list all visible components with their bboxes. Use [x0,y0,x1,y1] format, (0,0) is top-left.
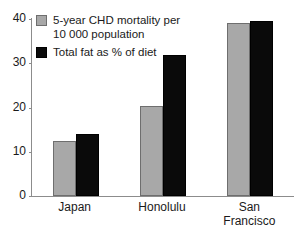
grey-swatch-icon [36,15,47,26]
y-axis-tick-mark [29,196,32,197]
y-axis-tick: 20 [0,108,32,109]
y-axis-tick-label: 40 [13,11,26,26]
bar [140,106,163,196]
y-axis-tick-label: 0 [19,188,26,203]
legend-item-total-fat: Total fat as % of diet [36,45,180,59]
x-axis-category-label: Honolulu [117,200,207,214]
bar [227,23,250,196]
bar [76,134,99,196]
bar-group [226,19,274,196]
y-axis-tick-label: 10 [13,144,26,159]
black-swatch-icon [36,47,47,58]
bar [53,141,76,196]
bar [163,55,186,196]
x-axis-line [31,196,294,197]
bar [250,21,273,196]
y-axis-tick: 30 [0,63,32,64]
legend-item-chd-mortality: 5-year CHD mortality per 10 000 populati… [36,13,180,41]
y-axis-tick-label: 30 [13,55,26,70]
y-axis-tick: 0 [0,196,32,197]
x-axis-category-label: San Francisco [204,200,294,228]
y-axis-tick: 40 [0,19,32,20]
bar-chart: 010203040 JapanHonoluluSan Francisco 5-y… [0,0,303,234]
y-axis-tick: 10 [0,152,32,153]
chart-legend: 5-year CHD mortality per 10 000 populati… [36,13,180,63]
legend-item-label: Total fat as % of diet [53,45,157,59]
legend-item-label: 5-year CHD mortality per 10 000 populati… [53,13,180,41]
y-axis-tick-label: 20 [13,100,26,115]
x-axis-category-label: Japan [30,200,120,214]
